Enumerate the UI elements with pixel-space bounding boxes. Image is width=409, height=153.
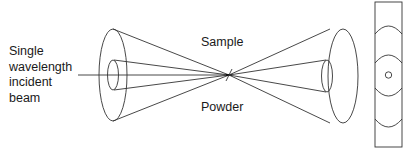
beam-label-line-1: Single — [9, 44, 72, 60]
incident-beam-label: Single wavelength incident beam — [9, 44, 72, 106]
powder-label: Powder — [201, 100, 243, 116]
sample-label: Sample — [201, 35, 243, 51]
powder-diffraction-diagram: Single wavelength incident beam Sample P… — [0, 0, 409, 153]
beam-label-line-2: wavelength — [9, 60, 72, 76]
right-diffraction-cone — [229, 29, 358, 123]
beam-label-line-3: incident — [9, 75, 72, 91]
film-strip-with-rings — [375, 2, 402, 147]
beam-label-line-4: beam — [9, 91, 72, 107]
